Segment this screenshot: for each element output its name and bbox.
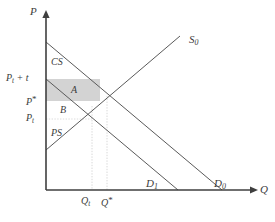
price-tick-suffix: + t bbox=[14, 72, 29, 83]
region-label-tax-revenue-a: A bbox=[71, 85, 77, 95]
price-tick-subscript: t bbox=[32, 117, 34, 125]
quantity-tick-quantity-tax: Qt bbox=[81, 196, 90, 208]
price-tick-price-with-tax: Pt + t bbox=[6, 73, 29, 85]
price-tick-price-equilibrium: P* bbox=[26, 95, 37, 107]
region-label-consumer-surplus: CS bbox=[51, 57, 63, 67]
quantity-tick-subscript: t bbox=[88, 200, 90, 208]
region-label-deadweight-b: B bbox=[60, 105, 66, 115]
quantity-tick-quantity-equilibrium: Q* bbox=[101, 196, 113, 208]
curve-label-base: D bbox=[214, 177, 222, 189]
diagram-canvas bbox=[0, 0, 275, 222]
curve-label-supply-curve: S0 bbox=[189, 34, 198, 47]
demand-curve-d0 bbox=[46, 42, 222, 190]
y-axis-arrowhead bbox=[42, 10, 49, 18]
supply-demand-figure: P Q Pt + t P* Pt Qt Q* CS A B PS S0 D1 D… bbox=[0, 0, 275, 222]
quantity-tick-star: * bbox=[108, 195, 113, 205]
price-tick-price-producer: Pt bbox=[26, 113, 34, 125]
curve-label-demand-curve-original: D0 bbox=[214, 178, 226, 191]
price-tick-star: * bbox=[32, 94, 37, 104]
curve-label-base: D bbox=[146, 177, 154, 189]
curve-label-demand-curve-shifted: D1 bbox=[146, 178, 158, 191]
demand-curve-d1 bbox=[46, 79, 178, 190]
x-axis-arrowhead bbox=[250, 186, 258, 193]
curve-label-subscript: 0 bbox=[195, 38, 199, 47]
curve-label-subscript: 1 bbox=[154, 182, 158, 191]
curve-label-subscript: 0 bbox=[222, 182, 226, 191]
region-label-producer-surplus: PS bbox=[51, 128, 62, 138]
x-axis-label: Q bbox=[260, 184, 268, 195]
y-axis-label: P bbox=[30, 6, 37, 17]
